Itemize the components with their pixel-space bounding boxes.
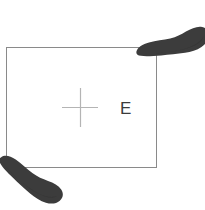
figure-canvas: E: [0, 0, 205, 210]
footprint-top-right: [134, 26, 205, 59]
footprint-bottom-left-sole: [0, 145, 66, 210]
point-label-e: E: [120, 99, 131, 118]
figure-container: E: [0, 0, 205, 210]
footprint-bottom-left: [0, 145, 66, 210]
footprint-top-right-sole: [134, 26, 205, 59]
